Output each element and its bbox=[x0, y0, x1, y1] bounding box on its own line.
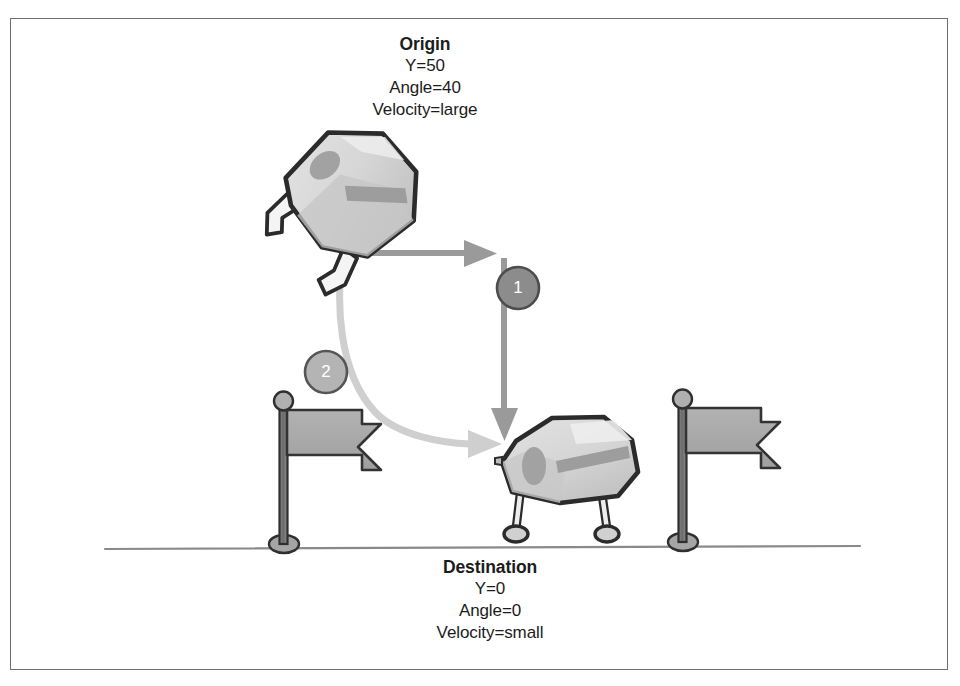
destination-angle-value: Angle=0 bbox=[340, 600, 640, 622]
origin-velocity-value: Velocity=large bbox=[280, 99, 570, 121]
diagram-canvas: 1 2 Origin Y=50 Angle=40 Velocity=large … bbox=[0, 0, 960, 686]
ground-line bbox=[105, 546, 860, 549]
origin-angle-value: Angle=40 bbox=[280, 77, 570, 99]
destination-title: Destination bbox=[340, 556, 640, 578]
destination-y-value: Y=0 bbox=[340, 578, 640, 600]
origin-label-group: Origin Y=50 Angle=40 Velocity=large bbox=[280, 33, 570, 121]
step-badge-1 bbox=[497, 267, 539, 309]
flag-icon-right bbox=[668, 390, 780, 552]
flag-icon-left bbox=[269, 392, 382, 554]
step-badge-2 bbox=[305, 351, 347, 393]
origin-y-value: Y=50 bbox=[280, 55, 570, 77]
origin-title: Origin bbox=[280, 33, 570, 55]
tumbling-creature-icon bbox=[238, 104, 447, 306]
standing-creature-icon bbox=[495, 417, 638, 542]
destination-velocity-value: Velocity=small bbox=[340, 622, 640, 644]
destination-label-group: Destination Y=0 Angle=0 Velocity=small bbox=[340, 556, 640, 644]
